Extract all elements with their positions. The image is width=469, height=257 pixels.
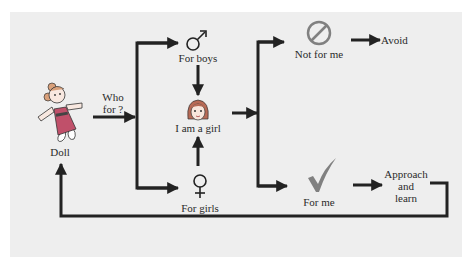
prohibited-icon — [308, 22, 330, 44]
for-me-label: For me — [292, 196, 346, 208]
male-symbol-icon — [187, 31, 206, 50]
who-for-line1: Who — [95, 91, 131, 103]
doll-label: Doll — [38, 146, 82, 158]
approach-line1: Approach — [381, 168, 431, 180]
for-boys-label: For boys — [168, 52, 228, 64]
not-for-me-label: Not for me — [286, 48, 352, 60]
girl-face-icon — [188, 100, 209, 120]
bracket-gender — [137, 43, 176, 188]
doll-icon — [38, 83, 82, 142]
who-for-label: Who for ? — [95, 91, 131, 115]
bracket-evaluation — [258, 42, 284, 186]
female-symbol-icon — [194, 175, 206, 198]
approach-and-learn-label: Approach and learn — [381, 168, 431, 204]
i-am-a-girl-label: I am a girl — [165, 122, 231, 134]
avoid-label: Avoid — [381, 34, 417, 46]
approach-line2: and — [381, 180, 431, 192]
approach-line3: learn — [381, 192, 431, 204]
checkmark-icon — [308, 158, 336, 192]
for-girls-label: For girls — [168, 202, 232, 214]
who-for-line2: for ? — [95, 103, 131, 115]
